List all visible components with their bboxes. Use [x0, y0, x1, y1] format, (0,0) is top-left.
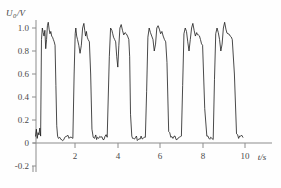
y-tick-label-0.6: 0.6: [18, 69, 30, 79]
signal-trace: [36, 22, 243, 140]
y-tick-label-1.0: 1.0: [18, 23, 30, 33]
y-tick-label-0.8: 0.8: [18, 46, 30, 56]
chart-figure: 1.0 0.8 0.6 0.4 0.2 0 -0.2 2 4 6 8 10 t/…: [0, 0, 281, 188]
y-axis-ticks: [32, 28, 36, 172]
y-axis-title-unit: /V: [16, 8, 27, 18]
x-tick-label-2: 2: [73, 151, 78, 161]
y-axis-title: U 0 /V: [6, 8, 27, 19]
x-tick-label-8: 8: [201, 151, 206, 161]
x-tick-label-6: 6: [158, 151, 163, 161]
y-tick-label-0: 0: [25, 138, 30, 148]
x-axis-ticks: [75, 143, 245, 148]
x-tick-label-4: 4: [116, 151, 121, 161]
y-tick-label-minus0.2: -0.2: [15, 161, 29, 171]
voltage-time-plot: 1.0 0.8 0.6 0.4 0.2 0 -0.2 2 4 6 8 10 t/…: [0, 0, 281, 188]
x-axis-title: t/s: [258, 152, 267, 162]
y-tick-label-0.2: 0.2: [18, 115, 29, 125]
y-axis-title-main: U: [6, 8, 13, 18]
y-tick-label-0.4: 0.4: [18, 92, 30, 102]
x-tick-label-10: 10: [241, 151, 251, 161]
